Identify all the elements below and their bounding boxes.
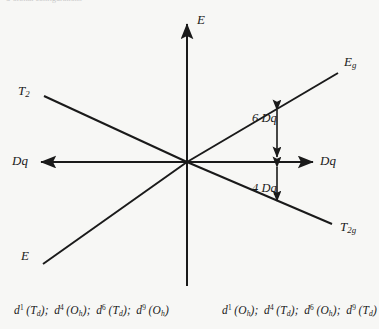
caption-term: d6 (Td) — [96, 304, 127, 316]
state-term: E — [344, 54, 352, 69]
caption-separator: ; — [87, 304, 96, 316]
caption-separator: ; — [255, 304, 264, 316]
caption-right: d1 (Oh); d4 (Td); d6 (Oh); d9 (Td) — [222, 303, 377, 317]
state-subscript: 2g — [347, 225, 356, 235]
state-label-eg-right: Eg — [344, 55, 356, 70]
caption-paren-close: ) — [165, 304, 169, 316]
line-t2-left — [44, 96, 187, 162]
caption-term: d4 (Oh) — [54, 304, 87, 316]
state-subscript: g — [352, 60, 356, 70]
splitting-label-6dq: 6 Dq — [252, 112, 277, 125]
caption-separator: ; — [337, 304, 346, 316]
caption-symmetry-symbol: O — [153, 304, 161, 316]
caption-separator: ; — [295, 304, 304, 316]
caption-symmetry-symbol: O — [70, 304, 78, 316]
caption-symmetry-symbol: O — [320, 304, 328, 316]
state-label-e-left: E — [21, 249, 29, 262]
caption-term: d1 (Td) — [14, 304, 45, 316]
state-term: E — [21, 248, 29, 263]
splitting-label-4dq: 4 Dq — [252, 182, 277, 195]
caption-paren-close: ) — [373, 304, 377, 316]
caption-term: d9 (Td) — [346, 304, 377, 316]
caption-term: d6 (Oh) — [304, 304, 337, 316]
line-e-left — [43, 162, 187, 264]
dq-label-left: Dq — [12, 154, 28, 167]
dq-label-right: Dq — [320, 154, 336, 167]
state-label-t2g-right: T2g — [340, 220, 356, 235]
state-label-t2-left: T2 — [18, 84, 30, 99]
caption-symmetry-symbol: O — [238, 304, 246, 316]
figure-canvas: d-orbital configurations — [0, 0, 379, 329]
caption-term: d1 (Oh) — [222, 304, 255, 316]
caption-left: d1 (Td); d4 (Oh); d6 (Td); d9 (Oh) — [14, 303, 169, 317]
caption-separator: ; — [127, 304, 136, 316]
caption-term: d9 (Oh) — [136, 304, 169, 316]
caption-term: d4 (Td) — [264, 304, 295, 316]
caption-separator: ; — [45, 304, 54, 316]
energy-axis-label: E — [197, 13, 205, 26]
state-subscript: 2 — [25, 89, 29, 99]
